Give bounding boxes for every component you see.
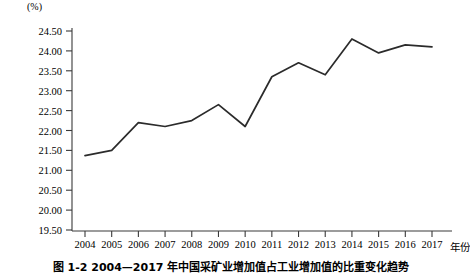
figure-caption: 图 1-2 2004—2017 年中国采矿业增加值占工业增加值的比重变化趋势	[0, 258, 462, 274]
y-axis-ticks	[66, 31, 72, 230]
y-axis-tick-label: 24.00	[22, 45, 62, 56]
x-axis-ticks	[85, 231, 432, 237]
y-axis-tick-label: 24.50	[22, 26, 62, 37]
y-axis-tick-label: 23.50	[22, 65, 62, 76]
y-axis-tick-label: 22.50	[22, 105, 62, 116]
y-axis-tick-label: 19.50	[22, 225, 62, 236]
y-axis-tick-label: 20.00	[22, 205, 62, 216]
y-axis-tick-label: 23.00	[22, 85, 62, 96]
y-axis-tick-label: 22.00	[22, 125, 62, 136]
y-axis-tick-label: 20.50	[22, 185, 62, 196]
x-axis-tick-label: 2017	[412, 239, 452, 250]
y-axis-tick-label: 21.00	[22, 165, 62, 176]
x-axis-title: 年份	[450, 239, 470, 254]
y-axis-tick-label: 21.50	[22, 145, 62, 156]
data-series-line	[85, 39, 432, 156]
